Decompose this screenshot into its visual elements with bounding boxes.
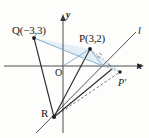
- point-R: [52, 115, 56, 119]
- line-l-label: l: [138, 26, 141, 36]
- congruence-tick-2: [99, 53, 102, 55]
- point-P: [88, 47, 92, 51]
- y-axis-arrowhead: [60, 14, 66, 21]
- point-label-Pprime: P′: [118, 78, 126, 88]
- segment-RQ: [34, 38, 54, 117]
- y-axis-label: y: [66, 11, 70, 21]
- geometry-figure: Q(−3,3) P(3,2) R P′ O x y l: [0, 0, 149, 138]
- origin-label: O: [55, 68, 62, 78]
- segment-R-to-Pprime-dashed: [54, 72, 120, 117]
- segment-RP: [54, 49, 90, 117]
- point-Q: [32, 36, 36, 40]
- point-label-P: P(3,2): [79, 33, 105, 44]
- point-label-R: R: [41, 108, 48, 119]
- point-label-Q: Q(−3,3): [12, 25, 46, 36]
- point-Pprime: [118, 70, 121, 73]
- geometry-canvas: [0, 0, 149, 138]
- x-axis-label: x: [137, 62, 142, 72]
